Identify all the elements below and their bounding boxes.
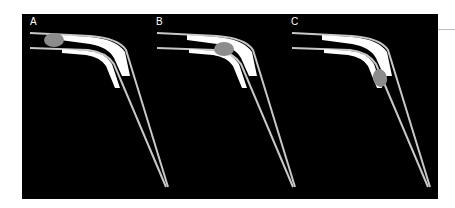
panel-label-a: A xyxy=(30,16,37,27)
panel-c xyxy=(292,33,430,187)
panel-label-b: B xyxy=(156,16,163,27)
object-ellipse xyxy=(214,42,234,56)
panel-label-c: C xyxy=(291,16,298,27)
panel-b xyxy=(157,33,295,187)
panel-a xyxy=(30,33,168,187)
tube-diagram: A B C xyxy=(0,0,455,208)
object-ellipse xyxy=(44,33,64,47)
